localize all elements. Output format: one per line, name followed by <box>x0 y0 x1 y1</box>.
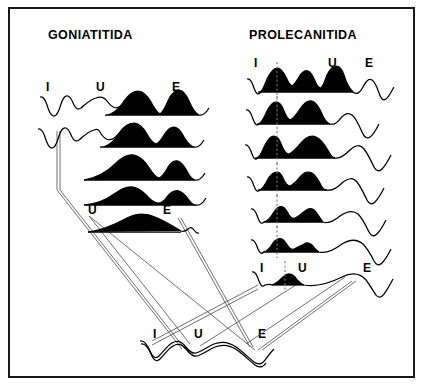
suture-goniatitida-4 <box>84 187 206 205</box>
ancestral-suture <box>140 341 274 367</box>
connector-lines <box>57 131 356 350</box>
suture-prolecanitida-5 <box>251 195 386 236</box>
suture-goniatitida-2 <box>38 123 204 148</box>
suture-diagram <box>0 0 425 387</box>
suture-prolecanitida-1 <box>247 62 394 100</box>
suture-goniatitida-3 <box>84 155 205 180</box>
suture-prolecanitida-6 <box>251 226 391 265</box>
suture-goniatitida-1 <box>40 90 209 116</box>
figure-canvas: GONIATITIDA PROLECANITIDA I U E U E I U … <box>0 0 425 387</box>
suture-prolecanitida-4 <box>247 163 384 204</box>
suture-prolecanitida-2 <box>246 96 379 138</box>
suture-goniatitida-5 <box>88 214 199 233</box>
